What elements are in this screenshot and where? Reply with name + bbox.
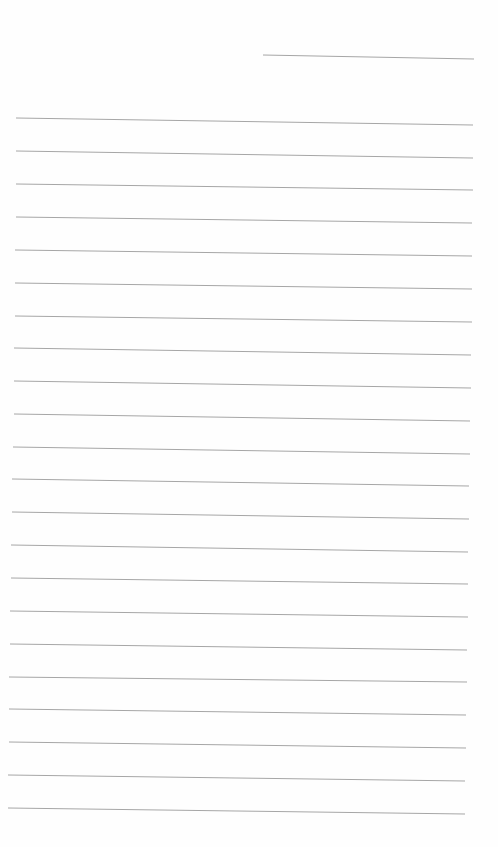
rule-line [12, 479, 469, 486]
rule-line [11, 545, 468, 552]
rule-line [16, 184, 473, 190]
date-line [263, 55, 474, 59]
rule-line [9, 709, 466, 715]
rule-line [16, 217, 472, 223]
rule-line [14, 414, 470, 421]
rule-line [8, 775, 465, 781]
rule-line [8, 808, 465, 814]
lined-paper-page [0, 0, 498, 847]
rule-line [15, 250, 472, 256]
rule-line [14, 381, 471, 388]
rule-line [16, 151, 473, 158]
rule-line [16, 118, 473, 125]
rule-line [10, 644, 467, 650]
rule-line [13, 447, 470, 454]
rule-line [9, 742, 466, 748]
ruled-lines [0, 0, 498, 847]
rule-line [9, 677, 467, 682]
rule-line [10, 611, 468, 617]
rule-line [15, 283, 472, 289]
rule-line [15, 316, 472, 322]
rule-line [11, 578, 468, 584]
rule-line [14, 348, 471, 355]
rule-line [12, 512, 469, 519]
